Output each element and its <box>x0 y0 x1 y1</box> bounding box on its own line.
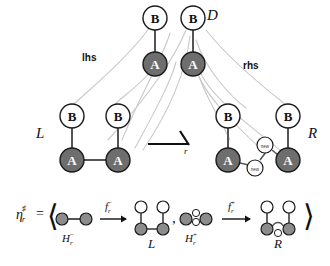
formula-arrow-minus <box>100 216 127 223</box>
node-r-b-2: B <box>276 104 300 128</box>
graphlet-node <box>261 201 273 213</box>
graphlet-node-new <box>192 209 199 216</box>
formula-comma: , <box>172 210 176 227</box>
h-superscript: − <box>70 231 74 239</box>
formula-source-label-minus: H−r <box>62 232 77 244</box>
node-label: A <box>67 153 77 168</box>
h-symbol: H <box>185 232 193 244</box>
morphism-label-lhs: lhs <box>82 52 96 63</box>
node-label: B <box>189 11 198 26</box>
graphlet-node <box>180 213 192 225</box>
node-l-a-1: A <box>60 148 84 172</box>
rule-arrow-label: r <box>184 146 188 156</box>
node-label: new <box>251 167 260 172</box>
f-subscript: r <box>108 207 111 215</box>
h-superscript: + <box>193 231 197 239</box>
formula-arrow-label-minus: f−r <box>105 200 115 212</box>
node-r-b-1: B <box>216 104 240 128</box>
rule-arrow <box>148 131 189 145</box>
formula-target-label-r: R <box>274 236 282 252</box>
node-label: B <box>224 109 233 124</box>
graphlet-node <box>157 201 169 213</box>
graphlet-h-minus <box>56 213 92 225</box>
top-graph: B A B A <box>143 6 205 76</box>
graphlet-node <box>135 201 147 213</box>
graphlet-node <box>157 223 169 235</box>
node-r-a-1: A <box>216 148 240 172</box>
formula-lhs-symbol: η♯r <box>16 207 30 223</box>
right-graph: B B A A new new <box>216 104 300 176</box>
left-graph: B B A A <box>60 104 130 172</box>
formula-source-label-plus: H+r <box>185 232 200 244</box>
graphlet-l <box>135 201 169 235</box>
node-label: A <box>188 57 198 72</box>
node-label: B <box>114 109 123 124</box>
graphlet-h-plus <box>180 209 212 225</box>
graphlet-node <box>135 223 147 235</box>
node-l-a-2: A <box>106 148 130 172</box>
node-l-b-2: B <box>106 104 130 128</box>
node-d-a-left: A <box>143 52 167 76</box>
eta-superscript: ♯ <box>22 204 26 213</box>
f-subscript: r <box>231 207 234 215</box>
top-graph-name-label: D <box>207 7 218 24</box>
graphlet-node <box>283 223 295 235</box>
node-r-new-2: new <box>247 160 263 176</box>
figure-canvas: B A B A B <box>0 0 330 266</box>
node-label: A <box>223 153 233 168</box>
graphlet-node <box>200 213 212 225</box>
formula-close-angle: ⟩ <box>303 198 315 233</box>
graphlet-node <box>283 201 295 213</box>
f-superscript: + <box>231 199 235 207</box>
node-d-b-left: B <box>143 6 167 30</box>
formula-target-label-l: L <box>148 236 155 252</box>
graphlet-node <box>261 223 273 235</box>
node-r-a-2: A <box>276 148 300 172</box>
graphlet-node-new <box>192 218 199 225</box>
node-label: B <box>151 11 160 26</box>
node-l-b-1: B <box>60 104 84 128</box>
node-r-new-1: new <box>257 137 273 153</box>
h-subscript: r <box>70 239 73 247</box>
h-symbol: H <box>62 232 70 244</box>
node-label: A <box>283 153 293 168</box>
eta-subscript: r <box>22 215 25 224</box>
node-label: new <box>261 144 270 149</box>
h-subscript: r <box>193 239 196 247</box>
morphism-label-rhs: rhs <box>243 60 259 71</box>
node-label: A <box>113 153 123 168</box>
formula-open-angle: ⟨ <box>47 198 59 233</box>
f-superscript: − <box>108 199 112 207</box>
node-d-b-right: B <box>181 6 205 30</box>
formula-equals: = <box>36 206 44 222</box>
formula-arrow-plus <box>222 216 251 223</box>
graphlet-r <box>261 201 295 237</box>
formula-arrow-label-plus: f+r <box>228 200 238 212</box>
node-label: A <box>150 57 160 72</box>
node-d-a-right: A <box>181 52 205 76</box>
left-graph-name-label: L <box>36 125 44 142</box>
right-graph-name-label: R <box>308 125 317 142</box>
node-label: B <box>284 109 293 124</box>
graphlet-node <box>80 213 92 225</box>
node-label: B <box>68 109 77 124</box>
